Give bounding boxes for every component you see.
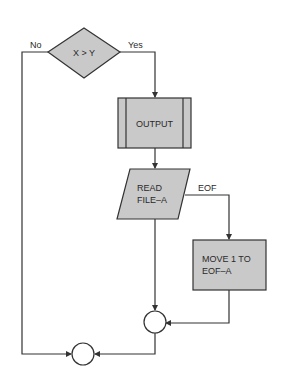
connector-bottom-circle xyxy=(72,343,94,365)
yes-label: Yes xyxy=(128,40,143,50)
read-label-line2: FILE–A xyxy=(137,195,167,205)
move-label-line1: MOVE 1 TO xyxy=(202,254,251,264)
no-branch-line xyxy=(22,52,71,354)
eof-branch-line xyxy=(185,195,229,239)
yes-branch-line xyxy=(120,52,155,97)
output-label: OUTPUT xyxy=(136,119,174,129)
eof-label: EOF xyxy=(198,183,217,193)
read-label-line1: READ xyxy=(137,183,163,193)
move-label-line2: EOF–A xyxy=(202,266,232,276)
move-node: MOVE 1 TO EOF–A xyxy=(193,240,266,290)
read-node: READ FILE–A xyxy=(117,169,190,219)
output-node: OUTPUT xyxy=(118,98,191,148)
no-label: No xyxy=(30,40,42,50)
move-to-connector-line xyxy=(166,290,229,323)
move-box xyxy=(193,240,266,290)
connector-to-bottom-line xyxy=(95,333,155,354)
decision-label: X > Y xyxy=(73,48,95,58)
connector-right-circle xyxy=(144,311,166,333)
decision-node: X > Y xyxy=(48,28,120,78)
read-parallelogram xyxy=(117,169,190,219)
flowchart: No Yes X > Y OUTPUT READ FILE–A EOF MOVE… xyxy=(0,0,282,382)
